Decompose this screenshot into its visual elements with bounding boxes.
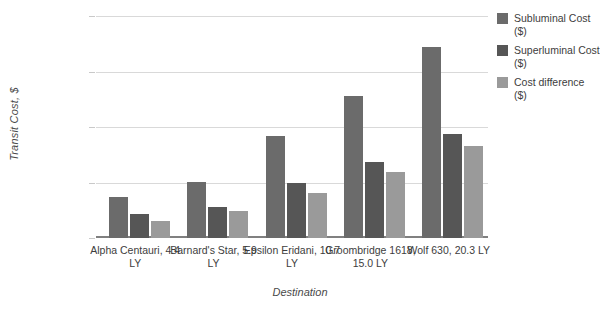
y-axis-tickmark (89, 127, 95, 128)
legend-swatch-icon (497, 13, 508, 24)
bar[interactable] (151, 221, 170, 238)
legend-label: Cost difference ($) (514, 76, 584, 101)
y-axis-tickmark (89, 72, 95, 73)
bar[interactable] (109, 197, 128, 238)
bar-chart: Transit Cost, $ 120000009000000600000030… (0, 0, 600, 309)
x-axis-category-label: Wolf 630, 20.3 LY (400, 244, 498, 257)
bar[interactable] (464, 146, 483, 238)
plot-area: 120000009000000600000030000000 (96, 16, 488, 238)
bar-group (187, 16, 248, 238)
legend: Subluminal Cost ($)Superluminal Cost ($)… (497, 12, 600, 108)
y-axis-tickmark (89, 238, 95, 239)
legend-swatch-icon (497, 77, 508, 88)
bar[interactable] (443, 134, 462, 238)
bar-group (344, 16, 405, 238)
legend-item[interactable]: Cost difference ($) (497, 76, 600, 102)
legend-item[interactable]: Subluminal Cost ($) (497, 12, 600, 38)
bar[interactable] (287, 183, 306, 239)
legend-label: Subluminal Cost ($) (514, 12, 590, 37)
legend-swatch-icon (497, 45, 508, 56)
bar[interactable] (308, 193, 327, 238)
bar[interactable] (208, 207, 227, 238)
y-axis-tickmark (89, 183, 95, 184)
legend-item[interactable]: Superluminal Cost ($) (497, 44, 600, 70)
bar[interactable] (386, 172, 405, 238)
legend-label: Superluminal Cost ($) (514, 44, 600, 69)
x-axis-title: Destination (0, 286, 600, 298)
bar-group (266, 16, 327, 238)
y-axis-title: Transit Cost, $ (8, 54, 20, 194)
bar[interactable] (187, 182, 206, 238)
bar[interactable] (365, 162, 384, 238)
y-axis-tickmark (89, 16, 95, 17)
bar[interactable] (130, 214, 149, 238)
bar[interactable] (422, 47, 441, 238)
bar-group (109, 16, 170, 238)
bar[interactable] (266, 136, 285, 238)
bar-group (422, 16, 483, 238)
bar[interactable] (344, 96, 363, 238)
bar[interactable] (229, 211, 248, 238)
